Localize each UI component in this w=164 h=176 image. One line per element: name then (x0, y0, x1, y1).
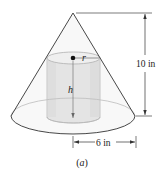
cylinder-radius-label: r (82, 52, 86, 63)
arrow-left-icon (74, 140, 79, 143)
cylinder-height-label: h (68, 84, 73, 95)
cone-height-label: 10 in (136, 59, 156, 69)
cone-radius-label: 6 in (96, 138, 111, 148)
figure-caption: (a) (76, 157, 88, 169)
cone-cylinder-diagram: r h 10 in 6 in (a) (a) (0, 0, 164, 176)
arrow-up-icon (143, 14, 146, 19)
inscribed-cylinder (47, 52, 100, 123)
arrow-right-icon (130, 140, 135, 143)
cylinder-center-dot (71, 56, 76, 61)
arrow-down-icon (143, 110, 146, 115)
cone-radius-dimension: 6 in (73, 136, 136, 148)
